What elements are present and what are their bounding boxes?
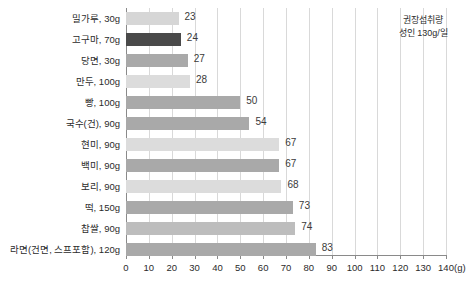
bar-value-label: 67 bbox=[285, 158, 296, 169]
bar-row: 27 bbox=[126, 50, 446, 71]
bar-row: 74 bbox=[126, 218, 446, 239]
bar bbox=[126, 201, 293, 214]
category-label: 국수(건), 90g bbox=[0, 113, 120, 134]
bar-row: 73 bbox=[126, 197, 446, 218]
bar-value-label: 54 bbox=[255, 116, 266, 127]
category-label: 찹쌀, 90g bbox=[0, 218, 120, 239]
note-line-1: 권장섭취량 bbox=[383, 14, 463, 27]
bar-value-label: 28 bbox=[196, 74, 207, 85]
bar-value-label: 83 bbox=[322, 242, 333, 253]
bar-value-label: 24 bbox=[187, 32, 198, 43]
bar-row: 54 bbox=[126, 113, 446, 134]
bar bbox=[126, 243, 316, 256]
tick-mark-140 bbox=[446, 255, 447, 259]
bar-value-label: 27 bbox=[194, 53, 205, 64]
bar-row: 67 bbox=[126, 155, 446, 176]
bar-value-label: 68 bbox=[287, 179, 298, 190]
bar bbox=[126, 33, 181, 46]
bar-row: 68 bbox=[126, 176, 446, 197]
bar bbox=[126, 12, 179, 25]
category-label: 빵, 100g bbox=[0, 92, 120, 113]
bar-series: 232427285054676768737483 bbox=[126, 8, 446, 255]
bar-row: 83 bbox=[126, 239, 446, 260]
bar bbox=[126, 222, 295, 235]
x-axis-unit-label: (g) bbox=[454, 262, 466, 273]
bar bbox=[126, 138, 279, 151]
bar bbox=[126, 180, 281, 193]
category-label: 만두, 100g bbox=[0, 71, 120, 92]
category-label: 고구마, 70g bbox=[0, 29, 120, 50]
category-label: 떡, 150g bbox=[0, 197, 120, 218]
bar-chart: 밀가루, 30g고구마, 70g당면, 30g만두, 100g빵, 100g국수… bbox=[0, 0, 466, 287]
bar bbox=[126, 117, 249, 130]
category-label: 밀가루, 30g bbox=[0, 8, 120, 29]
bar-value-label: 73 bbox=[299, 200, 310, 211]
bar-value-label: 23 bbox=[185, 11, 196, 22]
bar-row: 67 bbox=[126, 134, 446, 155]
category-label: 보리, 90g bbox=[0, 176, 120, 197]
bar-value-label: 74 bbox=[301, 221, 312, 232]
bar-row: 50 bbox=[126, 92, 446, 113]
gridline-140 bbox=[446, 8, 447, 255]
category-label: 현미, 90g bbox=[0, 134, 120, 155]
bar bbox=[126, 96, 240, 109]
category-label: 백미, 90g bbox=[0, 155, 120, 176]
note-line-2: 성인 130g/일 bbox=[383, 27, 463, 40]
bar-value-label: 50 bbox=[246, 95, 257, 106]
bar bbox=[126, 75, 190, 88]
bar-value-label: 67 bbox=[285, 137, 296, 148]
bar bbox=[126, 54, 188, 67]
category-label: 당면, 30g bbox=[0, 50, 120, 71]
category-labels: 밀가루, 30g고구마, 70g당면, 30g만두, 100g빵, 100g국수… bbox=[0, 8, 120, 255]
recommended-intake-note: 권장섭취량 성인 130g/일 bbox=[383, 14, 463, 40]
bar-row: 28 bbox=[126, 71, 446, 92]
bar bbox=[126, 159, 279, 172]
category-label: 라면(건면, 스프포함), 120g bbox=[0, 239, 120, 260]
